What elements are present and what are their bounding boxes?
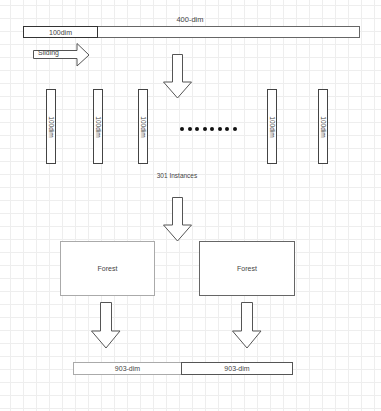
- output-box: 903-dim: [181, 362, 293, 375]
- dot: [188, 127, 192, 131]
- instance-bar: 100dim: [267, 89, 277, 164]
- output-label: 903-dim: [224, 365, 249, 372]
- dot: [203, 127, 207, 131]
- output-box: 903-dim: [73, 362, 182, 375]
- instance-label: 100dim: [320, 116, 327, 137]
- output-label: 903-dim: [115, 365, 140, 372]
- dot: [218, 127, 222, 131]
- instance-bar: 100dim: [46, 89, 56, 164]
- window-label: 100dim: [49, 29, 72, 36]
- instance-bar: 100dim: [318, 89, 328, 164]
- down-arrow-icon: [163, 54, 193, 100]
- dot: [210, 127, 214, 131]
- window-box: 100dim: [23, 26, 98, 38]
- down-arrow-icon: [232, 302, 262, 350]
- instance-label: 100dim: [140, 116, 147, 137]
- down-arrow-icon: [91, 302, 121, 350]
- forest-box: Forest: [60, 241, 155, 296]
- down-arrow-icon: [163, 197, 193, 243]
- dot: [225, 127, 229, 131]
- instance-label: 100dim: [48, 116, 55, 137]
- instances-caption: 301 Instances: [150, 172, 204, 179]
- ellipsis-dots: [180, 127, 237, 131]
- full-vector-label: 400-dim: [160, 15, 220, 24]
- dot: [233, 127, 237, 131]
- forest-label: Forest: [98, 265, 118, 272]
- instance-bar: 100dim: [138, 89, 148, 164]
- forest-label: Forest: [237, 265, 257, 272]
- dot: [180, 127, 184, 131]
- instance-label: 100dim: [95, 116, 102, 137]
- forest-box: Forest: [199, 241, 295, 296]
- instance-bar: 100dim: [93, 89, 103, 164]
- sliding-label: Sliding: [38, 49, 74, 56]
- dot: [195, 127, 199, 131]
- instance-label: 100dim: [269, 116, 276, 137]
